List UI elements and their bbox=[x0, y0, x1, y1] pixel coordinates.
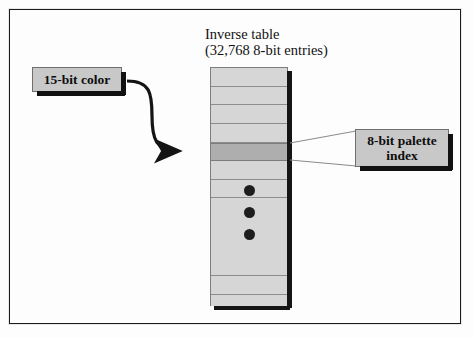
table-row bbox=[211, 69, 287, 87]
table-row bbox=[211, 124, 287, 143]
page-title: Inverse table (32,768 8-bit entries) bbox=[205, 26, 395, 58]
input-callout-box[interactable]: 15-bit color bbox=[32, 67, 122, 92]
input-callout-label: 15-bit color bbox=[44, 72, 110, 87]
table-row-highlighted bbox=[211, 143, 287, 161]
table-row bbox=[211, 276, 287, 295]
table-shadow-right bbox=[287, 71, 292, 308]
inverse-table-diagram: Inverse table (32,768 8-bit entries) 15-… bbox=[0, 0, 474, 338]
table-row bbox=[211, 105, 287, 124]
table-row bbox=[211, 161, 287, 180]
output-callout-label: 8-bit palette index bbox=[367, 133, 436, 163]
table-row bbox=[211, 295, 287, 306]
ellipsis-dot bbox=[244, 207, 255, 218]
output-callout-box[interactable]: 8-bit palette index bbox=[355, 129, 449, 167]
ellipsis-dot bbox=[244, 229, 255, 240]
output-box-shadow-bottom bbox=[360, 166, 452, 171]
table-row bbox=[211, 258, 287, 276]
input-box-shadow-bottom bbox=[37, 91, 125, 96]
ellipsis-dot bbox=[244, 185, 255, 196]
table-row bbox=[211, 87, 287, 105]
output-box-shadow-right bbox=[448, 134, 453, 170]
